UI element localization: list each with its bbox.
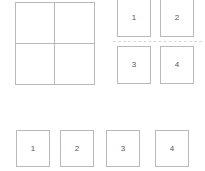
card-label: 1	[132, 14, 136, 22]
grid-cell-bottom-left[interactable]	[16, 44, 55, 85]
top-right-card-1[interactable]: 1	[117, 0, 151, 37]
page-root: 1 2 3 4 1 2 3 4	[0, 0, 205, 171]
card-label: 4	[175, 61, 179, 69]
grid-cell-top-left[interactable]	[16, 3, 55, 44]
card-label: 1	[31, 145, 35, 153]
grid-cell-bottom-right[interactable]	[55, 44, 94, 85]
top-right-card-2[interactable]: 2	[160, 0, 194, 37]
quadrant-grid	[15, 2, 95, 85]
bottom-card-1[interactable]: 1	[16, 130, 50, 167]
bottom-card-4[interactable]: 4	[155, 130, 189, 167]
dashed-divider	[113, 41, 202, 42]
card-label: 2	[175, 14, 179, 22]
top-right-card-4[interactable]: 4	[160, 46, 194, 84]
card-label: 4	[170, 145, 174, 153]
bottom-card-2[interactable]: 2	[60, 130, 94, 167]
card-label: 3	[121, 145, 125, 153]
top-right-card-3[interactable]: 3	[117, 46, 151, 84]
grid-cell-top-right[interactable]	[55, 3, 94, 44]
card-label: 2	[75, 145, 79, 153]
card-label: 3	[132, 61, 136, 69]
bottom-card-3[interactable]: 3	[106, 130, 140, 167]
